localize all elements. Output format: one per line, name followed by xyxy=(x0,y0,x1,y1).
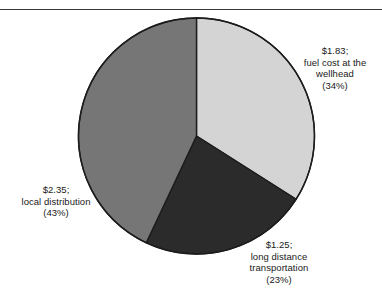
pie-label-longdist-percent: (23%) xyxy=(222,274,336,286)
pie-label-local-distribution: $2.35; local distribution (43%) xyxy=(0,184,112,219)
pie-label-longdist-value: $1.25; xyxy=(222,239,336,251)
pie-label-local-name: local distribution xyxy=(0,196,112,208)
pie-label-local-percent: (43%) xyxy=(0,207,112,219)
pie-label-fuel-cost-wellhead: $1.83; fuel cost at the wellhead (34%) xyxy=(288,45,382,91)
pie-label-longdist-name-1: long distance xyxy=(222,251,336,263)
pie-label-fuel-value: $1.83; xyxy=(288,45,382,57)
pie-label-fuel-name-2: wellhead xyxy=(288,68,382,80)
pie-label-fuel-name-1: fuel cost at the xyxy=(288,57,382,69)
pie-label-long-distance-transportation: $1.25; long distance transportation (23%… xyxy=(222,239,336,285)
pie-label-fuel-percent: (34%) xyxy=(288,80,382,92)
pie-chart-figure: $1.83; fuel cost at the wellhead (34%) $… xyxy=(0,0,382,293)
pie-label-local-value: $2.35; xyxy=(0,184,112,196)
pie-label-longdist-name-2: transportation xyxy=(222,262,336,274)
